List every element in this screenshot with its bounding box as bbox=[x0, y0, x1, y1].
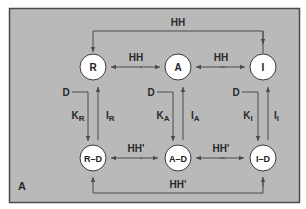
top-bracket-label: HH bbox=[171, 17, 185, 28]
bottom-bracket-label: HH' bbox=[170, 179, 187, 190]
node-r: R bbox=[80, 54, 106, 80]
reaction-scheme-diagram: HH HH HH D KR IR D KA IA D KI II HH' bbox=[0, 0, 306, 209]
panel-background bbox=[10, 9, 300, 203]
edge-ad-id-label: HH' bbox=[213, 143, 230, 154]
ligand-label-r: D bbox=[62, 87, 69, 98]
node-i-d: I–D bbox=[250, 145, 276, 171]
ligand-label-i: D bbox=[232, 87, 239, 98]
node-a: A bbox=[165, 54, 191, 80]
svg-text:A: A bbox=[174, 62, 181, 73]
edge-r-a-label: HH bbox=[129, 52, 143, 63]
node-r-d: R–D bbox=[80, 145, 106, 171]
node-i: I bbox=[250, 54, 276, 80]
panel-label: A bbox=[18, 180, 26, 192]
ligand-label-a: D bbox=[147, 87, 154, 98]
svg-text:R: R bbox=[89, 62, 97, 73]
node-a-d: A–D bbox=[165, 145, 191, 171]
svg-text:I–D: I–D bbox=[256, 154, 271, 164]
svg-text:I: I bbox=[262, 62, 265, 73]
edge-a-i-label: HH bbox=[214, 52, 228, 63]
svg-text:A–D: A–D bbox=[169, 154, 188, 164]
edge-rd-ad-label: HH' bbox=[128, 143, 145, 154]
svg-text:R–D: R–D bbox=[84, 154, 103, 164]
